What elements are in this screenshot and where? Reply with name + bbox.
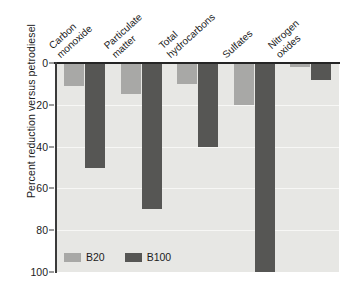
plot-area (56, 63, 339, 272)
bar-b20-carbon-monoxide (64, 63, 84, 86)
x-label-total-hydrocarbons: Total hydrocarbons (157, 2, 217, 60)
x-axis-category-labels: Carbon monoxide Particulate matter Total… (0, 0, 348, 63)
legend-item-b20: B20 (64, 251, 105, 263)
y-tick-label: 60 (36, 182, 48, 194)
chart-legend: B20 B100 (64, 251, 185, 263)
bar-b100-carbon-monoxide (85, 63, 105, 168)
bar-b100-sulfates (255, 63, 275, 272)
x-label-line: Sulfates (220, 27, 255, 60)
x-label-carbon-monoxide: Carbon monoxide (47, 14, 95, 60)
y-tick-label: 80 (36, 224, 48, 236)
x-label-nitrogen-oxides: Nitrogen oxides (266, 18, 309, 60)
legend-label: B20 (86, 251, 105, 263)
y-tick-label: 20 (36, 99, 48, 111)
y-axis-line (55, 62, 57, 273)
x-axis-line (54, 62, 340, 64)
legend-swatch-icon (125, 253, 142, 262)
bar-b100-nitrogen-oxides (311, 63, 331, 80)
bar-chart: Percent reduction versus petrodiesel 0 2… (0, 0, 348, 293)
legend-label: B100 (147, 251, 172, 263)
legend-item-b100: B100 (125, 251, 172, 263)
bar-b100-total-hydrocarbons (198, 63, 218, 147)
bar-b20-total-hydrocarbons (177, 63, 197, 84)
y-tick-mark (49, 272, 54, 273)
y-tick-mark (49, 146, 54, 147)
y-tick-label: 40 (36, 141, 48, 153)
gridline (56, 230, 339, 231)
y-tick-mark (49, 104, 54, 105)
legend-swatch-icon (64, 253, 81, 262)
gridline (56, 188, 339, 189)
bar-b20-particulate-matter (121, 63, 141, 94)
y-tick-label: 100 (30, 266, 48, 278)
x-label-sulfates: Sulfates (220, 27, 255, 60)
y-tick-mark (49, 230, 54, 231)
x-label-particulate-matter: Particulate matter (102, 11, 153, 60)
bar-b20-sulfates (234, 63, 254, 105)
bar-b100-particulate-matter (142, 63, 162, 209)
y-tick-mark (49, 188, 54, 189)
